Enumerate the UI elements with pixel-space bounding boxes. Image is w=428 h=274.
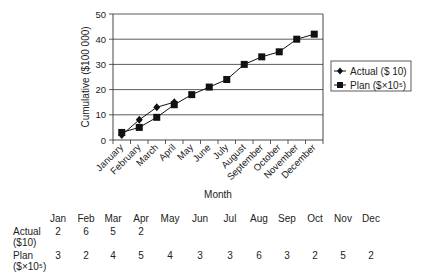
square-marker [311, 31, 318, 38]
table-cell: 2 [356, 250, 386, 261]
table-cell: 2 [126, 226, 156, 237]
y-axis-title: Cumulative ($100 000) [80, 26, 91, 127]
table-cell: 6 [244, 250, 274, 261]
data-table: JanFebMarAprMayJunJulAugSepOctNovDec Act… [0, 200, 428, 274]
table-column-header: Jan [43, 213, 73, 224]
y-tick-label: 30 [95, 59, 106, 70]
diamond-marker [153, 103, 160, 111]
table-cell: 2 [43, 226, 73, 237]
table-column-header: May [155, 213, 185, 224]
table-cell: 5 [126, 250, 156, 261]
table-cell: 4 [98, 250, 128, 261]
y-tick-label: 10 [95, 109, 106, 120]
table-cell: 3 [272, 250, 302, 261]
legend: Actual ($ 10)Plan ($×10⁵) [331, 61, 411, 91]
legend-label: Actual ($ 10) [350, 66, 407, 77]
square-marker [118, 129, 125, 136]
y-tick-label: 50 [95, 9, 106, 20]
square-marker [171, 101, 178, 108]
table-column-header: Oct [300, 213, 330, 224]
table-column-header: Jul [215, 213, 245, 224]
table-cell: 5 [328, 250, 358, 261]
square-marker [293, 36, 300, 43]
table-column-header: Sep [272, 213, 302, 224]
diamond-marker [136, 116, 143, 124]
table-cell: 6 [71, 226, 101, 237]
table-cell: 2 [71, 250, 101, 261]
square-marker [241, 61, 248, 68]
square-marker [188, 91, 195, 98]
table-cell: 3 [185, 250, 215, 261]
square-marker [206, 84, 213, 91]
cumulative-line-chart: 01020304050JanuaryFebruaryMarchAprilMayJ… [0, 0, 428, 200]
series-line [122, 34, 315, 132]
table-column-header: Mar [98, 213, 128, 224]
table-column-header: Jun [185, 213, 215, 224]
legend-label: Plan ($×10⁵) [350, 80, 406, 91]
y-tick-label: 20 [95, 84, 106, 95]
x-tick-label: June [190, 142, 212, 164]
square-marker [153, 114, 160, 121]
table-cell: 4 [155, 250, 185, 261]
square-marker [276, 48, 283, 55]
x-axis-title: Month [204, 189, 232, 200]
table-column-header: Nov [328, 213, 358, 224]
gridlines [113, 14, 323, 115]
table-row-label: Actual($10) [13, 226, 41, 248]
y-tick-label: 0 [101, 135, 106, 146]
table-row-label: Plan($×10⁵) [13, 250, 46, 272]
table-column-header: Apr [126, 213, 156, 224]
table-cell: 3 [215, 250, 245, 261]
series-lines [118, 31, 318, 139]
table-column-header: Dec [356, 213, 386, 224]
table-column-header: Aug [244, 213, 274, 224]
table-column-header: Feb [71, 213, 101, 224]
legend-square-icon [337, 82, 343, 88]
table-cell: 5 [98, 226, 128, 237]
square-marker [258, 53, 265, 60]
table-cell: 3 [43, 250, 73, 261]
x-tick-label: April [156, 142, 177, 163]
square-marker [136, 124, 143, 131]
y-tick-label: 40 [95, 34, 106, 45]
table-cell: 2 [300, 250, 330, 261]
axes: 01020304050JanuaryFebruaryMarchAprilMayJ… [93, 9, 323, 183]
square-marker [223, 76, 230, 83]
